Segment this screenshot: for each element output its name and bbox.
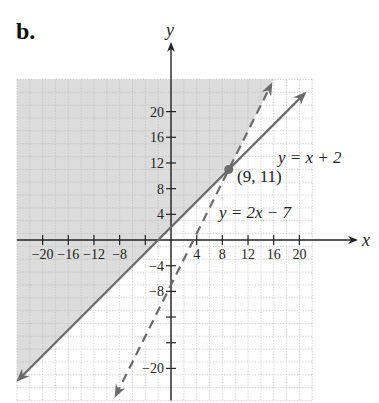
x-tick-label: −12 xyxy=(83,247,105,262)
x-axis-label: x xyxy=(361,230,370,250)
y-tick-label: −20 xyxy=(142,361,164,376)
x-tick-label: −16 xyxy=(57,247,79,262)
graph-plot: xy−20−16−12−84812162020161284−4−8−20(9, … xyxy=(0,0,379,403)
x-tick-label: 16 xyxy=(267,247,281,262)
y-tick-label: −4 xyxy=(149,259,164,274)
x-tick-label: −8 xyxy=(112,247,127,262)
y-axis-label: y xyxy=(164,20,174,40)
figure: b. xy−20−16−12−84812162020161284−4−8−20(… xyxy=(0,0,379,403)
x-tick-label: 12 xyxy=(241,247,255,262)
y-tick-label: 4 xyxy=(157,207,164,222)
x-tick-label: 4 xyxy=(193,247,200,262)
label-dashed-line: y = 2x − 7 xyxy=(217,203,293,222)
y-tick-label: 20 xyxy=(150,105,164,120)
y-tick-label: −8 xyxy=(149,284,164,299)
label-solid-line: y = x + 2 xyxy=(276,148,342,167)
x-tick-label: 20 xyxy=(292,247,306,262)
x-tick-label: 8 xyxy=(219,247,226,262)
y-tick-label: 8 xyxy=(157,182,164,197)
x-tick-label: −20 xyxy=(32,247,54,262)
intersection-point xyxy=(224,165,233,174)
annotation-point-label: (9, 11) xyxy=(237,167,282,186)
y-tick-label: 12 xyxy=(150,156,164,171)
y-tick-label: 16 xyxy=(150,130,164,145)
